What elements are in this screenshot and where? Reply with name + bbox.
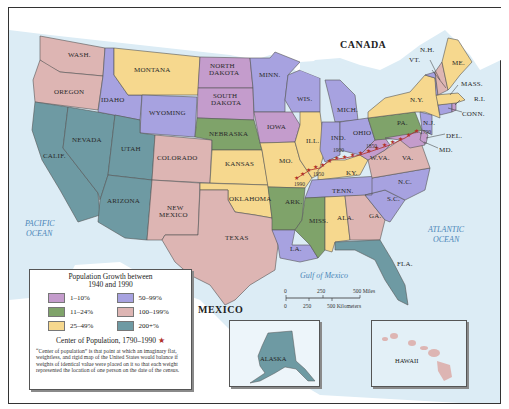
svg-text:★: ★ [320,162,325,168]
legend-center-label: Center of Population, 1790–1990 [56,336,156,345]
label-oregon: OREGON [54,88,84,96]
label-vt: VT. [409,56,420,64]
label-atlantic-1: ATLANTIC [427,225,465,234]
label-sc: S.C. [387,195,400,203]
state-arizona [98,175,152,240]
legend-center-of-population: Center of Population, 1790–1990 ★ [36,336,185,345]
legend-label: 11–24% [70,308,93,316]
label-idaho: IDAHO [101,96,125,104]
label-wash: WASH. [68,51,91,59]
swatch-1-10 [48,293,65,303]
label-pa: PA. [397,119,408,127]
legend-label: 200+% [139,322,159,330]
scale-km-250: 250 [303,303,311,309]
swatch-25-49 [48,321,65,331]
legend-item-11-24: 11–24% [48,307,117,317]
label-ky: KY. [346,169,358,177]
legend-item-25-49: 25–49% [48,321,117,331]
label-miss: MISS. [309,217,328,225]
svg-text:★: ★ [313,164,318,170]
star-icon: ★ [158,336,165,345]
legend-item-100-199: 100–199% [117,307,186,317]
label-ill: ILL. [306,137,319,145]
legend-item-200-plus: 200+% [117,321,186,331]
legend-title-line2: 1940 and 1990 [36,281,185,289]
label-montana: MONTANA [134,66,171,74]
state-mass [436,93,465,105]
legend-label: 1–10% [70,294,90,302]
label-hawaii: HAWAII [395,357,418,364]
label-pacific-2: OCEAN [26,229,53,238]
label-conn: CONN. [462,110,485,118]
svg-text:★: ★ [414,128,419,134]
state-mich [325,80,358,122]
scale-miles-500: 500 Miles [353,288,375,294]
label-gulf: Gulf of Mexico [300,271,348,280]
legend-item-50-99: 50–99% [117,293,186,303]
label-wyoming: WYOMING [149,109,186,117]
label-alaska: ALASKA [260,355,287,362]
label-ri: R.I. [474,95,485,103]
state-ny [368,75,440,118]
label-atlantic-2: OCEAN [433,235,460,244]
scale-km-0: 0 [284,303,287,309]
label-ga: GA. [369,212,382,220]
swatch-100-199 [117,307,134,317]
label-arizona: ARIZONA [107,197,140,205]
label-texas: TEXAS [225,234,249,242]
label-nc: N.C. [398,178,412,186]
scale-miles-250: 250 [317,288,325,294]
year-1790: 1790 [420,129,431,135]
label-kansas: KANSAS [225,160,254,168]
label-nh: N.H. [420,46,434,54]
label-ark: ARK. [285,198,302,206]
label-mass: MASS. [461,80,483,88]
scale-bar: 0 250 500 Miles 0 250 500 Kilometers [283,288,403,312]
svg-text:★: ★ [300,171,305,177]
label-nj: N.J. [423,119,435,127]
label-pacific-1: PACIFIC [24,219,55,228]
swatch-200-plus [117,321,134,331]
label-fla: FLA. [397,260,413,268]
label-ala: ALA. [337,214,354,222]
label-nevada: NEVADA [72,136,102,144]
swatch-50-99 [117,293,134,303]
inset-hawaii: HAWAII [371,320,467,387]
hawaii-map: HAWAII [372,321,467,387]
year-1950: 1950 [313,171,324,177]
legend: Population Growth between 1940 and 1990 … [29,269,192,390]
label-tenn: TENN. [332,187,353,195]
label-ohio: OHIO [353,129,371,137]
legend-label: 100–199% [139,308,169,316]
svg-text:★: ★ [382,142,387,148]
scale-miles-0: 0 [284,288,287,294]
inset-alaska: ALASKA [229,320,320,387]
legend-grid: 1–10% 50–99% 11–24% 100–199% 25–49% 200+… [48,293,185,331]
alaska-map: ALASKA [230,321,320,387]
state-wis [285,70,320,112]
label-ind: IND. [331,134,346,142]
svg-text:★: ★ [350,152,355,158]
year-1900: 1900 [333,147,344,153]
label-south-dakota-2: DAKOTA [211,99,241,107]
label-utah: UTAH [121,145,141,153]
label-wis: WIS. [297,95,312,103]
svg-text:★: ★ [390,139,395,145]
label-mich: MICH. [337,106,358,114]
label-ny: N.Y. [410,96,424,104]
label-iowa: IOWA [267,123,286,131]
svg-text:★: ★ [306,167,311,173]
legend-label: 25–49% [70,322,93,330]
label-del: DEL. [446,132,462,140]
svg-text:★: ★ [406,132,411,138]
label-minn: MINN. [259,71,280,79]
svg-text:★: ★ [334,155,339,161]
year-1990: 1990 [294,181,305,187]
svg-text:★: ★ [327,158,332,164]
year-1850: 1850 [366,143,377,149]
legend-note: “Center of population” is that point at … [36,348,185,374]
svg-text:★: ★ [358,150,363,156]
legend-label: 50–99% [139,294,162,302]
label-colorado: COLORADO [157,154,198,162]
label-new-mexico-2: MEXICO [159,211,188,219]
